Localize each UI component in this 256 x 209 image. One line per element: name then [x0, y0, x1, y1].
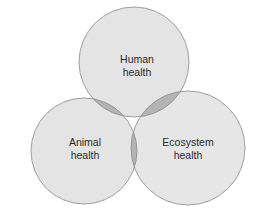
label-ecosystem-health: Ecosystem health [143, 136, 233, 162]
label-human-health: Human health [92, 53, 182, 79]
venn-diagram [0, 0, 256, 209]
label-animal-health: Animal health [40, 136, 130, 162]
